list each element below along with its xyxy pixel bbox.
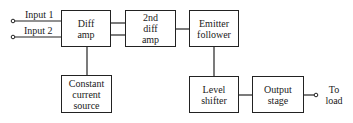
level-shifter-line2: shifter — [201, 95, 227, 106]
output-terminal-icon — [314, 93, 318, 97]
second-diff-amp-block: 2nd diff amp — [125, 10, 176, 47]
emitter-follower-block: Emitter follower — [189, 10, 239, 47]
output-stage-line2: stage — [268, 95, 289, 106]
second-diff-amp-line3: amp — [142, 34, 159, 45]
to-load-line1: To — [325, 84, 343, 95]
ccs-line1: Constant — [69, 78, 105, 89]
level-shifter-line1: Level — [203, 84, 226, 95]
diff-amp-line2: amp — [77, 29, 94, 40]
ccs-line2: current — [72, 89, 100, 100]
to-load-label: To load — [325, 84, 343, 106]
input2-terminal-icon — [11, 35, 15, 39]
diff-amp-block: Diff amp — [61, 10, 111, 47]
emitter-follower-line1: Emitter — [199, 18, 229, 29]
ccs-line3: source — [73, 100, 99, 111]
output-stage-block: Output stage — [252, 76, 304, 113]
input1-label: Input 1 — [25, 9, 54, 20]
constant-current-source-block: Constant current source — [61, 75, 112, 113]
diff-amp-line1: Diff — [78, 18, 94, 29]
emitter-follower-line2: follower — [197, 29, 231, 40]
input1-terminal-icon — [11, 19, 15, 23]
level-shifter-block: Level shifter — [189, 76, 239, 113]
second-diff-amp-line1: 2nd — [143, 12, 158, 23]
to-load-line2: load — [325, 95, 343, 106]
output-stage-line1: Output — [264, 84, 292, 95]
second-diff-amp-line2: diff — [143, 23, 157, 34]
input2-label: Input 2 — [24, 25, 53, 36]
